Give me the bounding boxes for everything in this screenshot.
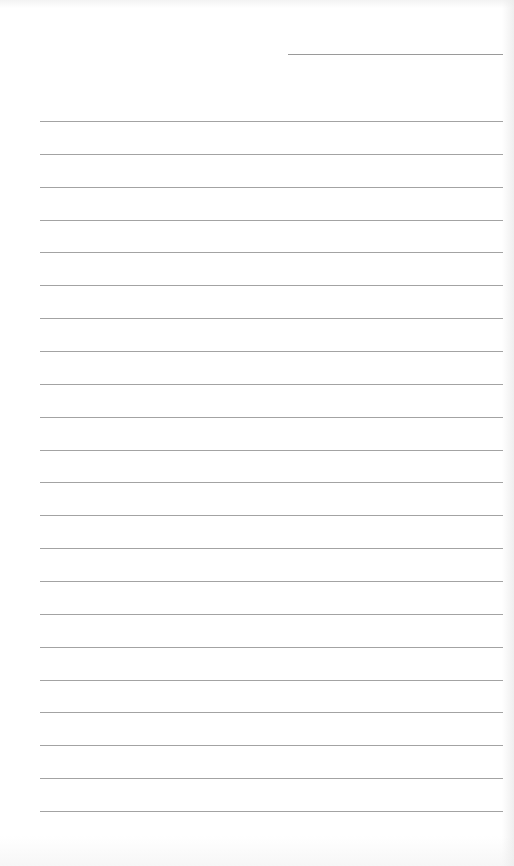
ruled-line — [40, 680, 503, 681]
ruled-line — [40, 187, 503, 188]
ruled-line — [40, 121, 503, 122]
ruled-line — [40, 285, 503, 286]
ruled-line — [40, 220, 503, 221]
ruled-line — [40, 318, 503, 319]
ruled-line — [40, 154, 503, 155]
ruled-line — [40, 252, 503, 253]
ruled-line — [40, 581, 503, 582]
ruled-line — [40, 384, 503, 385]
date-line — [288, 54, 503, 55]
ruled-line — [40, 482, 503, 483]
ruled-line — [40, 778, 503, 779]
ruled-line — [40, 811, 503, 812]
ruled-line — [40, 351, 503, 352]
ruled-line — [40, 712, 503, 713]
ruled-line — [40, 745, 503, 746]
ruled-line — [40, 515, 503, 516]
ruled-line — [40, 450, 503, 451]
ruled-line — [40, 548, 503, 549]
ruled-line — [40, 614, 503, 615]
ruled-line — [40, 647, 503, 648]
ruled-line — [40, 417, 503, 418]
lined-paper-sheet — [0, 0, 514, 866]
